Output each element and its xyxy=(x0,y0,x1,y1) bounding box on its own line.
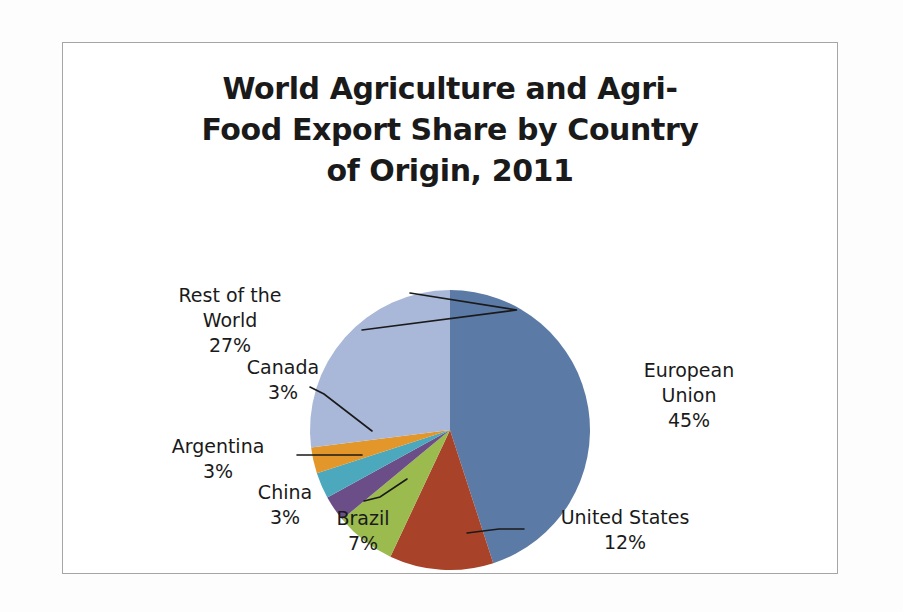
pie-label-united-states: United States 12% xyxy=(525,505,725,555)
pie-label-china: China 3% xyxy=(240,480,330,530)
pie-label-brazil: Brazil 7% xyxy=(318,506,408,556)
pie-label-european-union: European Union 45% xyxy=(604,358,774,433)
pie-label-canada: Canada 3% xyxy=(218,355,348,405)
pie-label-rest-of-world: Rest of the World 27% xyxy=(135,283,325,358)
pie-label-argentina: Argentina 3% xyxy=(148,434,288,484)
chart-page: World Agriculture and Agri- Food Export … xyxy=(0,0,903,612)
